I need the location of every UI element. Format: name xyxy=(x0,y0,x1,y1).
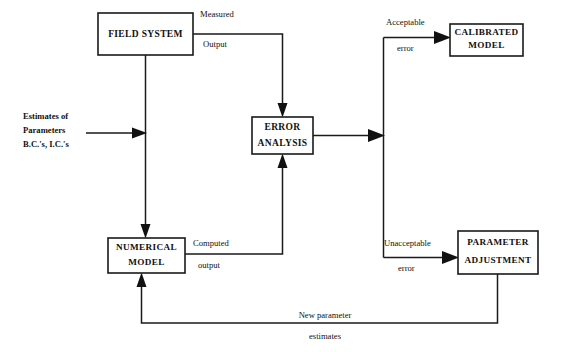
flowchart-svg: FIELD SYSTEM ERROR ANALYSIS CALIBRATED M… xyxy=(0,0,566,352)
node-field-system[interactable]: FIELD SYSTEM xyxy=(98,13,193,55)
flowchart-canvas: FIELD SYSTEM ERROR ANALYSIS CALIBRATED M… xyxy=(0,0,566,352)
input-label-line3: B.C.'s, I.C.'s xyxy=(23,139,69,149)
node-field-system-label: FIELD SYSTEM xyxy=(108,29,183,39)
node-parameter-adjustment-label-line1: PARAMETER xyxy=(467,237,529,247)
edge-label-unacceptable-error-line2: error xyxy=(398,263,415,273)
edge-label-acceptable-error-line2: error xyxy=(397,43,414,53)
node-calibrated-model-label-line1: CALIBRATED xyxy=(454,27,518,37)
edge-label-acceptable-error-line1: Acceptable xyxy=(386,17,425,27)
arrowhead-calibrated-model xyxy=(434,31,451,44)
input-label-line1: Estimates of xyxy=(23,111,68,121)
node-parameter-adjustment[interactable]: PARAMETER ADJUSTMENT xyxy=(458,231,538,274)
input-label-line2: Parameters xyxy=(23,125,66,135)
node-error-analysis-label-line1: ERROR xyxy=(264,122,300,132)
node-numerical-model-label-line1: NUMERICAL xyxy=(116,242,177,252)
node-error-analysis[interactable]: ERROR ANALYSIS xyxy=(252,117,313,154)
edge-label-new-parameter-line1: New parameter xyxy=(299,310,352,320)
edge-label-computed-output-line1: Computed xyxy=(193,238,230,248)
node-numerical-model-label-line2: MODEL xyxy=(128,257,164,267)
arrowhead-error-analysis-bottom xyxy=(278,154,288,169)
arrowhead-numerical-model-top xyxy=(141,224,151,239)
node-calibrated-model-label-line2: MODEL xyxy=(468,40,504,50)
arrowhead-parameter-adjustment xyxy=(442,251,459,264)
edge-label-measured-output-line1: Measured xyxy=(200,9,235,19)
node-calibrated-model[interactable]: CALIBRATED MODEL xyxy=(450,24,523,56)
edge-label-computed-output-line2: output xyxy=(198,260,221,270)
node-error-analysis-label-line2: ANALYSIS xyxy=(258,138,308,148)
edge-label-new-parameter-line2: estimates xyxy=(309,331,342,341)
node-numerical-model[interactable]: NUMERICAL MODEL xyxy=(108,238,185,273)
edge-label-unacceptable-error-line1: Unacceptable xyxy=(384,238,431,248)
arrowhead-junction xyxy=(368,129,385,142)
edge-label-measured-output-line2: Output xyxy=(203,39,227,49)
arrowhead-numerical-model-bottom xyxy=(137,273,147,288)
arrowhead-error-analysis-top xyxy=(278,103,288,118)
node-parameter-adjustment-label-line2: ADJUSTMENT xyxy=(465,255,532,265)
